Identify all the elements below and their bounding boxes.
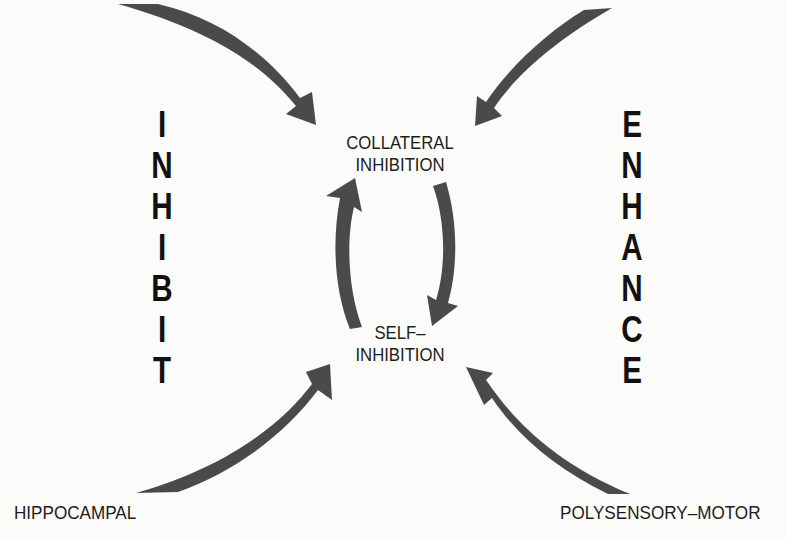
arrow-polysensory-to-self — [466, 367, 630, 494]
enhance-letter: A — [621, 227, 642, 268]
hippocampal-label: HIPPOCAMPAL — [14, 502, 136, 524]
arrows-layer — [0, 0, 786, 541]
inhibit-letter: N — [151, 145, 172, 186]
inhibit-letter: I — [158, 104, 166, 145]
enhance-letter: H — [621, 186, 642, 227]
arrow-top-right-to-collateral — [475, 8, 612, 126]
enhance-vertical-word: E N H A N C E — [616, 104, 648, 391]
inhibit-letter: I — [158, 227, 166, 268]
inhibit-letter: H — [151, 186, 172, 227]
collateral-line-2: INHIBITION — [328, 154, 472, 176]
inhibit-letter: B — [151, 268, 172, 309]
self-line-1: SELF– — [328, 322, 472, 344]
enhance-letter: C — [621, 309, 642, 350]
enhance-letter: N — [621, 268, 642, 309]
enhance-letter: N — [621, 145, 642, 186]
inhibit-letter: T — [153, 350, 171, 391]
arrow-collateral-to-self — [427, 182, 458, 326]
enhance-letter: E — [622, 104, 642, 145]
arrow-self-to-collateral — [326, 178, 362, 329]
collateral-inhibition-node: COLLATERAL INHIBITION — [328, 132, 472, 176]
collateral-line-1: COLLATERAL — [328, 132, 472, 154]
self-line-2: INHIBITION — [328, 344, 472, 366]
inhibit-letter: I — [158, 309, 166, 350]
inhibit-vertical-word: I N H I B I T — [146, 104, 178, 391]
enhance-letter: E — [622, 350, 642, 391]
polysensory-motor-label: POLYSENSORY–MOTOR — [560, 502, 761, 524]
self-inhibition-node: SELF– INHIBITION — [328, 322, 472, 366]
